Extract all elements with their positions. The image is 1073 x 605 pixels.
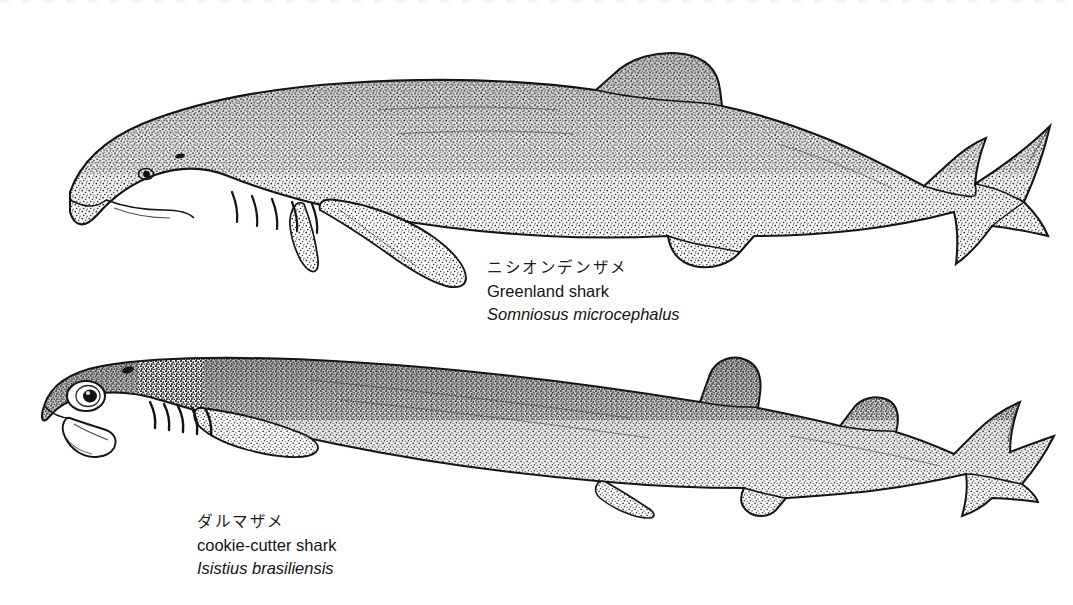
caption-scientific-name: Somniosus microcephalus <box>487 303 680 325</box>
figure-greenland-shark <box>18 14 1063 299</box>
illustration-plate: ニシオンデンザメ Greenland shark Somniosus micro… <box>0 0 1073 605</box>
caption-common-name: Greenland shark <box>487 280 680 302</box>
page-top-scan-artifact <box>0 0 1073 3</box>
caption-scientific-name: Isistius brasiliensis <box>197 557 336 579</box>
collar-band <box>138 340 204 520</box>
caption-greenland-shark: ニシオンデンザメ Greenland shark Somniosus micro… <box>487 258 680 325</box>
open-mouth <box>63 418 116 457</box>
caption-cookie-cutter-shark: ダルマザメ cookie-cutter shark Isistius brasi… <box>197 512 336 579</box>
caption-japanese-name: ニシオンデンザメ <box>487 258 680 279</box>
caption-common-name: cookie-cutter shark <box>197 534 336 556</box>
cookie-cutter-ventral-flap <box>596 481 654 518</box>
figure-cookie-cutter-shark <box>10 340 1065 520</box>
caption-japanese-name: ダルマザメ <box>197 512 336 533</box>
